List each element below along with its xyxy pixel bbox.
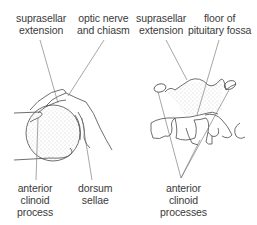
label-anterior-clinoid-process: anterior clinoid process (17, 182, 53, 218)
right-frontal-view (151, 40, 245, 178)
label-optic-nerve-and-chiasm: optic nerve and chiasm (77, 12, 130, 36)
anatomy-diagram: suprasellar extension optic nerve and ch… (0, 0, 257, 225)
label-floor-of-pituitary-fossa: floor of pituitary fossa (188, 12, 251, 36)
label-dorsum-sellae: dorsum sellae (78, 182, 112, 206)
label-anterior-clinoid-processes: anterior clinoid processes (160, 182, 207, 218)
label-suprasellar-extension-left: suprasellar extension (16, 12, 66, 36)
left-lateral-view (14, 40, 112, 180)
label-suprasellar-extension-right: suprasellar extension (136, 12, 186, 36)
